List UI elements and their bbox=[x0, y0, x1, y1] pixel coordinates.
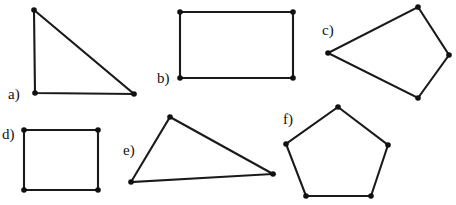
vertex-dot-d-3 bbox=[95, 187, 101, 193]
shape-outline-b bbox=[180, 12, 293, 78]
shape-e: e) bbox=[123, 114, 276, 185]
vertex-dot-f-1 bbox=[335, 104, 341, 110]
vertex-dot-d-2 bbox=[95, 127, 101, 133]
vertex-dot-d-4 bbox=[21, 187, 27, 193]
shape-outline-e bbox=[131, 117, 273, 182]
vertex-dot-e-1 bbox=[167, 114, 173, 120]
vertex-dot-a-3 bbox=[131, 91, 137, 97]
vertex-dot-d-1 bbox=[21, 127, 27, 133]
vertex-dot-c-1 bbox=[415, 4, 421, 10]
vertex-dot-f-2 bbox=[385, 142, 391, 148]
vertex-dot-a-1 bbox=[31, 7, 37, 13]
vertex-dot-f-5 bbox=[283, 141, 289, 147]
vertex-dot-b-2 bbox=[290, 9, 296, 15]
vertex-dot-c-3 bbox=[415, 95, 421, 101]
shape-label-e: e) bbox=[123, 142, 135, 159]
polygon-figure: a)b)c)d)e)f) bbox=[0, 0, 456, 205]
vertex-dot-b-1 bbox=[177, 9, 183, 15]
figure-canvas: a)b)c)d)e)f) bbox=[0, 0, 456, 205]
shape-label-b: b) bbox=[157, 70, 170, 87]
shape-a: a) bbox=[8, 7, 137, 103]
vertex-dot-e-3 bbox=[128, 179, 134, 185]
vertex-dot-c-4 bbox=[325, 50, 331, 56]
vertex-dot-a-2 bbox=[32, 90, 38, 96]
vertex-dot-b-4 bbox=[177, 75, 183, 81]
shape-outline-d bbox=[24, 130, 98, 190]
shape-outline-f bbox=[286, 107, 388, 196]
shape-outline-c bbox=[328, 7, 449, 98]
shape-b: b) bbox=[157, 9, 296, 87]
shape-f: f) bbox=[283, 104, 391, 199]
vertex-dot-b-3 bbox=[290, 75, 296, 81]
shape-label-c: c) bbox=[322, 22, 334, 39]
vertex-dot-f-4 bbox=[303, 193, 309, 199]
shape-c: c) bbox=[322, 4, 452, 101]
vertex-dot-e-2 bbox=[270, 171, 276, 177]
shape-label-a: a) bbox=[8, 86, 20, 103]
shape-label-d: d) bbox=[2, 126, 15, 143]
shape-label-f: f) bbox=[283, 111, 293, 128]
vertex-dot-c-2 bbox=[446, 52, 452, 58]
shape-outline-a bbox=[34, 10, 134, 94]
shape-d: d) bbox=[2, 126, 101, 193]
vertex-dot-f-3 bbox=[368, 193, 374, 199]
